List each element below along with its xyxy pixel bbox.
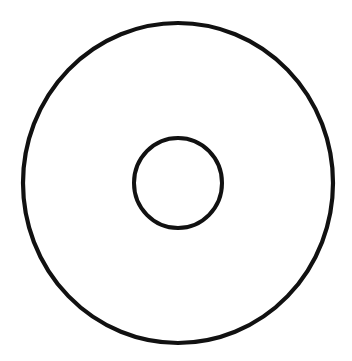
sunburst-wheel-figure: Radial sunburst wheel diagram [0,0,352,361]
hub-circle [134,138,222,228]
